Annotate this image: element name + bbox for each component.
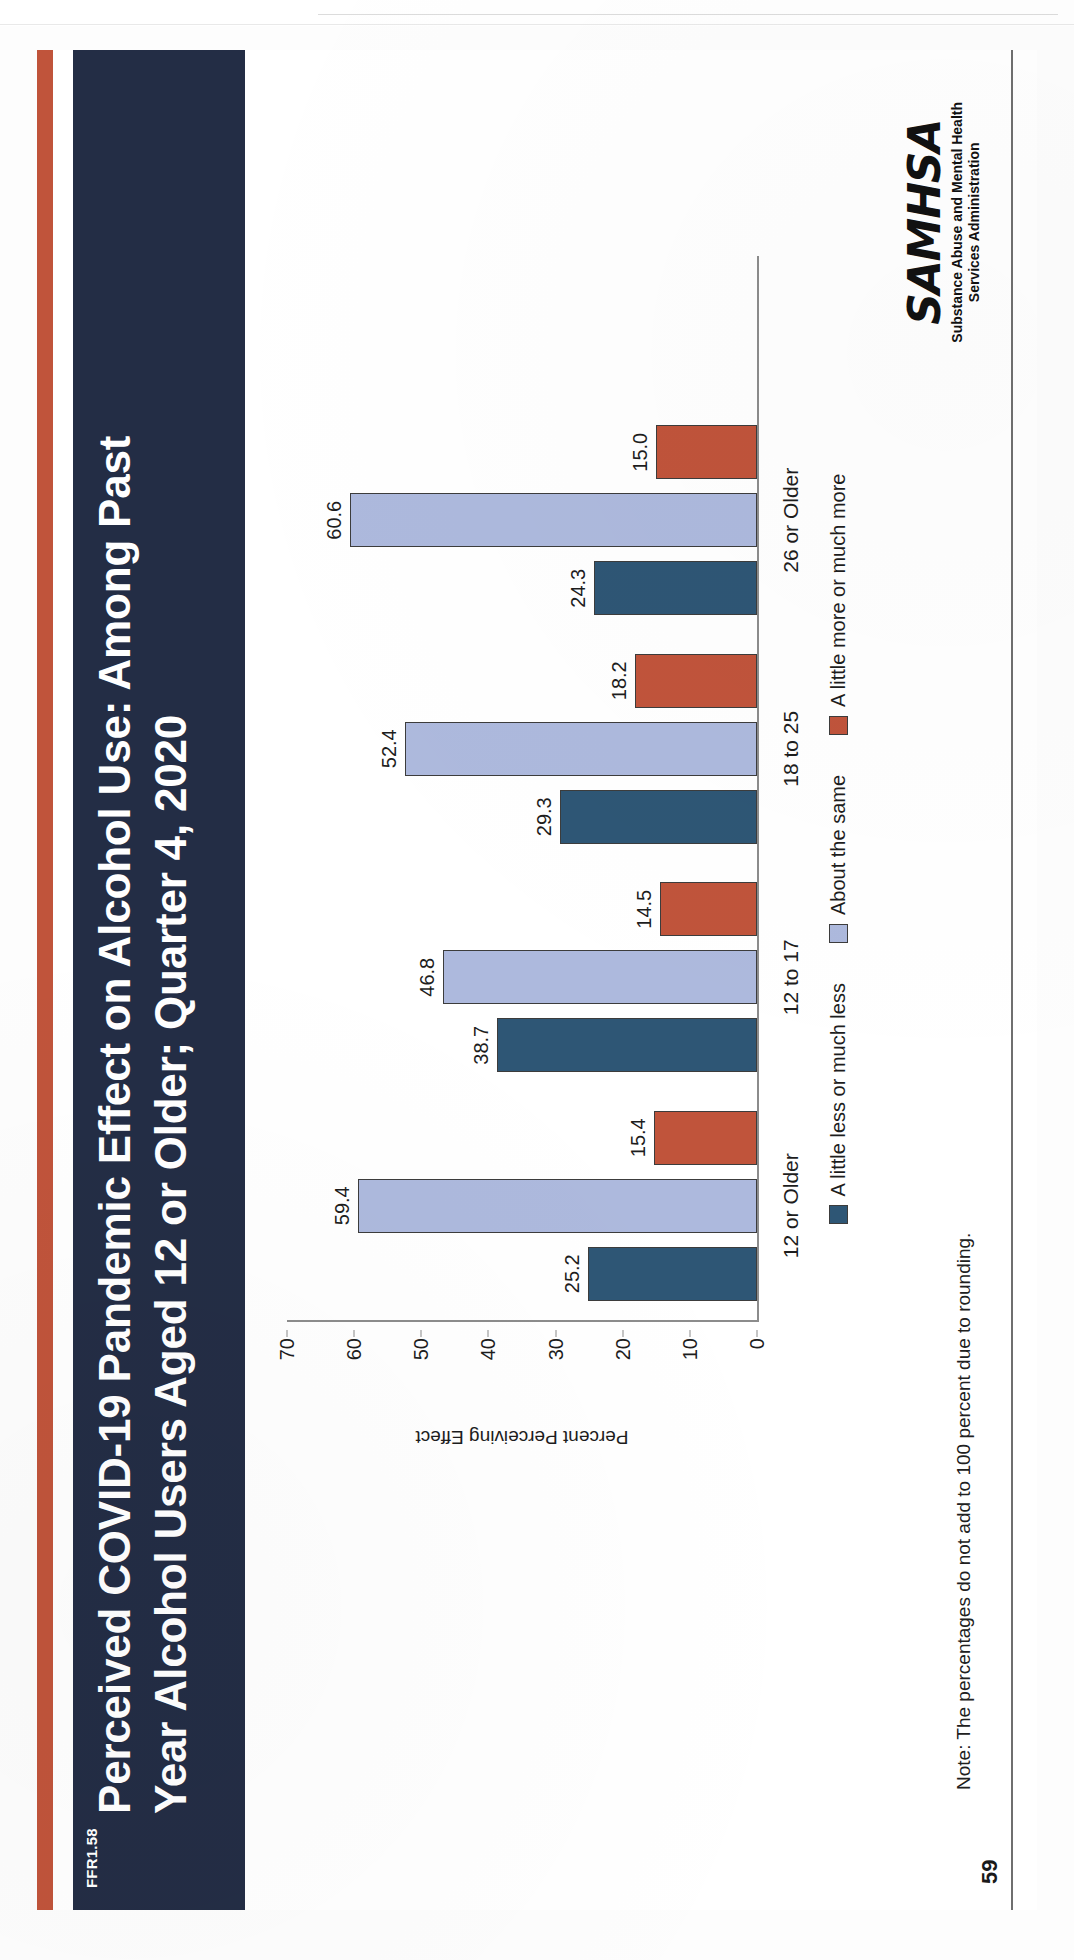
samhsa-subtitle-line-2: Services Administration [966, 102, 983, 343]
y-axis-tick-label: 70 [276, 1338, 299, 1398]
bar-group: 24.360.615.0 [287, 406, 757, 635]
y-axis-tick-label: 60 [343, 1338, 366, 1398]
bar-value-label: 38.7 [470, 1026, 493, 1065]
y-axis-title-label: Percent Perceiving Effect [416, 1426, 629, 1448]
samhsa-subtitle-line-1: Substance Abuse and Mental Health [949, 102, 966, 343]
page-title: Perceived COVID-19 Pandemic Effect on Al… [83, 106, 199, 1814]
y-axis-tick-label: 0 [746, 1338, 769, 1398]
y-axis-tick-mark [555, 1330, 556, 1337]
bar[interactable]: 14.5 [660, 882, 757, 936]
bar-value-label: 15.0 [629, 433, 652, 472]
slide: FFR1.58 Perceived COVID-19 Pandemic Effe… [37, 50, 1037, 1910]
legend-item[interactable]: About the same [827, 775, 850, 943]
scanned-page: FFR1.58 Perceived COVID-19 Pandemic Effe… [0, 0, 1074, 1960]
page-number: 59 [977, 1860, 1003, 1884]
samhsa-logo: SAMHSA Substance Abuse and Mental Health… [903, 102, 983, 343]
bar-value-label: 14.5 [633, 890, 656, 929]
bar[interactable]: 18.2 [635, 654, 757, 708]
y-axis-tick-mark [622, 1330, 623, 1337]
bar-value-label: 18.2 [608, 661, 631, 700]
legend-swatch-icon [829, 716, 848, 735]
y-axis-line [287, 1320, 759, 1322]
legend-label: A little more or much more [827, 474, 850, 707]
scan-artifact-line [318, 14, 1058, 15]
bar[interactable]: 52.4 [405, 722, 757, 776]
bar-groups: 25.259.415.438.746.814.529.352.418.224.3… [287, 406, 757, 1320]
y-axis-tick-mark [421, 1330, 422, 1337]
legend-swatch-icon [829, 924, 848, 943]
bar-value-label: 15.4 [627, 1118, 650, 1157]
y-axis-tick-label: 40 [477, 1338, 500, 1398]
legend-item[interactable]: A little more or much more [827, 474, 850, 735]
x-axis-category-label: 18 to 25 [779, 635, 803, 864]
bar-value-label: 46.8 [416, 958, 439, 997]
figure-id-tag: FFR1.58 [83, 1828, 100, 1888]
x-axis-line [757, 256, 759, 1322]
y-axis-tick-mark [757, 1330, 758, 1337]
y-axis-title: Percent Perceiving Effect [287, 1422, 757, 1452]
bar[interactable]: 46.8 [443, 950, 757, 1004]
chart-legend: A little less or much lessAbout the same… [827, 406, 850, 1292]
chart-note: Note: The percentages do not add to 100 … [953, 1233, 975, 1790]
bar-group: 25.259.415.4 [287, 1092, 757, 1321]
x-axis-category-label: 12 or Older [779, 1092, 803, 1321]
y-axis-tick-label: 20 [611, 1338, 634, 1398]
legend-label: About the same [827, 775, 850, 915]
y-axis-tick-mark [488, 1330, 489, 1337]
x-axis-category-labels: 12 or Older12 to 1718 to 2526 or Older [779, 406, 803, 1320]
samhsa-subtitle: Substance Abuse and Mental Health Servic… [949, 102, 983, 343]
bar-value-label: 60.6 [323, 501, 346, 540]
y-axis-tick-mark [689, 1330, 690, 1337]
bar-group: 38.746.814.5 [287, 863, 757, 1092]
title-bar: FFR1.58 Perceived COVID-19 Pandemic Effe… [73, 50, 245, 1910]
bar-value-label: 24.3 [567, 569, 590, 608]
scan-artifact-line-2 [0, 24, 1074, 25]
samhsa-wordmark: SAMHSA [903, 102, 947, 343]
plot-area: Percent Perceiving Effect 01020304050607… [287, 406, 757, 1442]
bar[interactable]: 15.0 [656, 425, 757, 479]
bar-value-label: 52.4 [378, 729, 401, 768]
bar-group: 29.352.418.2 [287, 635, 757, 864]
x-axis-category-label: 26 or Older [779, 406, 803, 635]
y-axis-tick-label: 50 [410, 1338, 433, 1398]
bar[interactable]: 25.2 [588, 1247, 757, 1301]
bar[interactable]: 60.6 [350, 493, 757, 547]
bar-chart: Percent Perceiving Effect 01020304050607… [277, 372, 887, 1592]
footer-rule [1011, 50, 1013, 1910]
bar-value-label: 25.2 [561, 1254, 584, 1293]
rotated-slide-container: FFR1.58 Perceived COVID-19 Pandemic Effe… [37, 50, 1037, 1910]
y-axis-tick-mark [287, 1330, 288, 1337]
bar[interactable]: 15.4 [654, 1111, 757, 1165]
y-axis-ticks: 010203040506070 [287, 1330, 757, 1402]
legend-label: A little less or much less [827, 983, 850, 1196]
bar[interactable]: 59.4 [358, 1179, 757, 1233]
legend-swatch-icon [829, 1205, 848, 1224]
legend-item[interactable]: A little less or much less [827, 983, 850, 1224]
bar-value-label: 29.3 [533, 797, 556, 836]
y-axis-tick-mark [354, 1330, 355, 1337]
y-axis-tick-label: 10 [678, 1338, 701, 1398]
accent-bar [37, 50, 53, 1910]
bar[interactable]: 24.3 [594, 561, 757, 615]
bar-value-label: 59.4 [331, 1186, 354, 1225]
bar[interactable]: 38.7 [497, 1018, 757, 1072]
scan-top-margin [0, 0, 1074, 26]
bar[interactable]: 29.3 [560, 790, 757, 844]
y-axis-tick-label: 30 [544, 1338, 567, 1398]
x-axis-category-label: 12 to 17 [779, 863, 803, 1092]
